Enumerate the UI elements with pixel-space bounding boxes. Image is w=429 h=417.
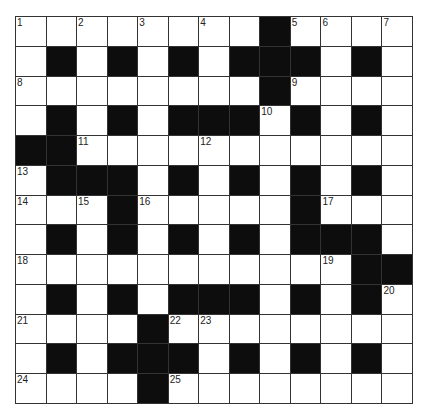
answer-cell[interactable] — [260, 136, 290, 165]
answer-cell[interactable] — [108, 255, 138, 284]
answer-cell[interactable] — [321, 77, 351, 106]
answer-cell[interactable] — [352, 77, 382, 106]
answer-cell[interactable] — [199, 255, 229, 284]
answer-cell[interactable] — [108, 136, 138, 165]
answer-cell[interactable] — [138, 136, 168, 165]
answer-cell[interactable]: 3 — [138, 17, 168, 46]
answer-cell[interactable]: 25 — [169, 374, 199, 403]
answer-cell[interactable] — [321, 315, 351, 344]
answer-cell[interactable] — [77, 374, 107, 403]
answer-cell[interactable]: 5 — [291, 17, 321, 46]
answer-cell[interactable] — [260, 225, 290, 254]
answer-cell[interactable]: 20 — [382, 285, 412, 314]
answer-cell[interactable]: 11 — [77, 136, 107, 165]
answer-cell[interactable]: 10 — [260, 106, 290, 135]
answer-cell[interactable] — [108, 315, 138, 344]
answer-cell[interactable]: 23 — [199, 315, 229, 344]
answer-cell[interactable] — [321, 344, 351, 373]
answer-cell[interactable]: 17 — [321, 196, 351, 225]
answer-cell[interactable] — [138, 285, 168, 314]
answer-cell[interactable] — [138, 255, 168, 284]
answer-cell[interactable] — [291, 315, 321, 344]
answer-cell[interactable] — [16, 225, 46, 254]
answer-cell[interactable] — [77, 77, 107, 106]
answer-cell[interactable] — [108, 374, 138, 403]
answer-cell[interactable]: 2 — [77, 17, 107, 46]
answer-cell[interactable] — [382, 374, 412, 403]
answer-cell[interactable] — [77, 255, 107, 284]
answer-cell[interactable] — [291, 255, 321, 284]
answer-cell[interactable] — [199, 47, 229, 76]
answer-cell[interactable]: 4 — [199, 17, 229, 46]
answer-cell[interactable] — [199, 374, 229, 403]
answer-cell[interactable]: 9 — [291, 77, 321, 106]
answer-cell[interactable] — [260, 315, 290, 344]
answer-cell[interactable] — [260, 285, 290, 314]
answer-cell[interactable] — [230, 17, 260, 46]
answer-cell[interactable] — [321, 106, 351, 135]
answer-cell[interactable] — [352, 374, 382, 403]
answer-cell[interactable]: 8 — [16, 77, 46, 106]
answer-cell[interactable] — [108, 17, 138, 46]
answer-cell[interactable] — [199, 196, 229, 225]
answer-cell[interactable] — [382, 225, 412, 254]
answer-cell[interactable] — [321, 166, 351, 195]
answer-cell[interactable] — [108, 77, 138, 106]
answer-cell[interactable] — [77, 285, 107, 314]
answer-cell[interactable] — [230, 374, 260, 403]
answer-cell[interactable]: 1 — [16, 17, 46, 46]
answer-cell[interactable] — [260, 166, 290, 195]
answer-cell[interactable] — [138, 47, 168, 76]
answer-cell[interactable] — [230, 315, 260, 344]
answer-cell[interactable]: 24 — [16, 374, 46, 403]
answer-cell[interactable] — [321, 136, 351, 165]
answer-cell[interactable] — [16, 285, 46, 314]
answer-cell[interactable] — [47, 77, 77, 106]
answer-cell[interactable]: 6 — [321, 17, 351, 46]
answer-cell[interactable] — [47, 255, 77, 284]
answer-cell[interactable] — [169, 77, 199, 106]
answer-cell[interactable] — [260, 374, 290, 403]
answer-cell[interactable] — [382, 106, 412, 135]
answer-cell[interactable] — [321, 374, 351, 403]
answer-cell[interactable]: 16 — [138, 196, 168, 225]
answer-cell[interactable] — [138, 166, 168, 195]
answer-cell[interactable] — [47, 196, 77, 225]
answer-cell[interactable] — [47, 17, 77, 46]
answer-cell[interactable] — [352, 17, 382, 46]
answer-cell[interactable] — [382, 77, 412, 106]
answer-cell[interactable] — [260, 196, 290, 225]
answer-cell[interactable] — [169, 136, 199, 165]
answer-cell[interactable] — [169, 196, 199, 225]
answer-cell[interactable] — [230, 196, 260, 225]
answer-cell[interactable] — [16, 47, 46, 76]
answer-cell[interactable]: 12 — [199, 136, 229, 165]
answer-cell[interactable] — [77, 47, 107, 76]
answer-cell[interactable] — [77, 344, 107, 373]
answer-cell[interactable] — [352, 196, 382, 225]
answer-cell[interactable] — [230, 77, 260, 106]
answer-cell[interactable] — [16, 344, 46, 373]
answer-cell[interactable]: 21 — [16, 315, 46, 344]
answer-cell[interactable] — [230, 136, 260, 165]
answer-cell[interactable] — [77, 225, 107, 254]
answer-cell[interactable] — [352, 315, 382, 344]
answer-cell[interactable] — [169, 17, 199, 46]
answer-cell[interactable]: 19 — [321, 255, 351, 284]
answer-cell[interactable] — [230, 255, 260, 284]
answer-cell[interactable]: 13 — [16, 166, 46, 195]
answer-cell[interactable] — [321, 285, 351, 314]
answer-cell[interactable] — [260, 255, 290, 284]
answer-cell[interactable]: 14 — [16, 196, 46, 225]
answer-cell[interactable] — [382, 166, 412, 195]
answer-cell[interactable] — [77, 106, 107, 135]
answer-cell[interactable]: 7 — [382, 17, 412, 46]
answer-cell[interactable] — [138, 225, 168, 254]
answer-cell[interactable] — [321, 47, 351, 76]
answer-cell[interactable] — [382, 315, 412, 344]
answer-cell[interactable] — [199, 166, 229, 195]
answer-cell[interactable] — [47, 315, 77, 344]
answer-cell[interactable] — [291, 136, 321, 165]
answer-cell[interactable] — [199, 225, 229, 254]
answer-cell[interactable] — [47, 374, 77, 403]
